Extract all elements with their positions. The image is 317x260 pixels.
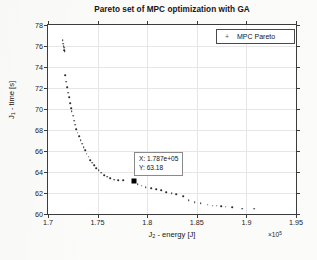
y-axis-label-subscript: 1 xyxy=(10,112,16,115)
y-axis-tick-right xyxy=(296,151,300,152)
x-axis-tick-label: 1.75 xyxy=(91,218,105,227)
gridline-horizontal xyxy=(48,46,296,47)
scatter-point xyxy=(194,201,196,203)
x-axis-tick-label: 1.7 xyxy=(43,218,53,227)
gridline-horizontal xyxy=(48,88,296,89)
y-axis-tick xyxy=(44,88,48,89)
scatter-point xyxy=(188,200,190,202)
scatter-point xyxy=(155,189,157,191)
scatter-point xyxy=(83,147,85,149)
x-axis-label: J2 - energy [J] xyxy=(47,230,297,239)
scatter-point xyxy=(212,205,214,207)
scatter-point xyxy=(74,124,76,126)
y-axis-tick-right xyxy=(296,193,300,194)
scatter-point xyxy=(72,115,74,117)
scatter-point xyxy=(150,187,152,189)
scatter-point xyxy=(145,186,147,188)
y-axis-tick-right xyxy=(296,109,300,110)
scatter-point xyxy=(242,208,244,210)
y-axis-tick-label: 72 xyxy=(35,84,43,93)
scatter-point xyxy=(65,75,67,77)
scatter-point xyxy=(81,143,83,145)
scatter-point xyxy=(160,189,162,191)
scatter-point xyxy=(207,204,209,206)
scatter-point xyxy=(216,205,218,207)
scatter-point xyxy=(110,178,112,180)
y-axis-label: J1 - time [s] xyxy=(7,81,16,119)
y-axis-tick-label: 68 xyxy=(35,126,43,135)
y-axis-tick xyxy=(44,193,48,194)
data-tip-x-value: X: 1.787e+05 xyxy=(139,155,178,164)
chart-legend[interactable]: + MPC Pareto xyxy=(216,29,295,44)
plot-axes: 606264666870727476781.71.751.81.851.91.9… xyxy=(47,24,297,215)
y-axis-tick-label: 78 xyxy=(35,21,43,30)
scatter-point xyxy=(70,107,72,109)
x-axis-tick-label: 1.8 xyxy=(142,218,152,227)
scatter-point xyxy=(175,193,177,195)
scatter-point xyxy=(90,159,92,161)
data-tip-callout[interactable]: X: 1.787e+05 Y: 63.18 xyxy=(134,152,183,176)
scatter-point xyxy=(69,102,71,104)
x-axis-tick-label: 1.95 xyxy=(289,218,303,227)
x-axis-tick-label: 1.85 xyxy=(190,218,204,227)
y-axis-tick xyxy=(44,25,48,26)
scatter-point xyxy=(123,180,125,182)
scatter-point xyxy=(86,153,88,155)
scatter-point xyxy=(93,165,95,167)
x-axis-tick-top xyxy=(246,21,247,25)
x-axis-tick-top xyxy=(98,21,99,25)
scatter-point xyxy=(68,92,70,94)
y-axis-tick xyxy=(44,109,48,110)
scatter-point xyxy=(80,139,82,141)
scatter-point xyxy=(91,162,93,164)
scatter-point xyxy=(71,110,73,112)
scatter-point xyxy=(62,39,64,41)
figure-canvas: Pareto set of MPC optimization with GA 6… xyxy=(0,0,317,260)
y-axis-tick-label: 62 xyxy=(35,189,43,198)
gridline-vertical xyxy=(147,25,148,214)
y-axis-tick xyxy=(44,151,48,152)
x-axis-tick-top xyxy=(197,21,198,25)
scatter-point xyxy=(137,183,139,185)
scatter-point xyxy=(182,195,184,197)
y-axis-tick xyxy=(44,46,48,47)
gridline-horizontal xyxy=(48,109,296,110)
y-axis-tick-right xyxy=(296,25,300,26)
scatter-point xyxy=(68,97,70,99)
scatter-point xyxy=(231,207,233,209)
scatter-point xyxy=(141,185,143,187)
x-axis-tick-top xyxy=(48,21,49,25)
gridline-vertical xyxy=(246,25,247,214)
scatter-point xyxy=(66,81,68,83)
x-axis-tick-top xyxy=(296,21,297,25)
scatter-point xyxy=(171,192,173,194)
x-axis-tick-top xyxy=(147,21,148,25)
scatter-point xyxy=(103,174,105,176)
y-axis-tick-right xyxy=(296,46,300,47)
scatter-point xyxy=(220,206,222,208)
scatter-point xyxy=(225,206,227,208)
gridline-vertical xyxy=(98,25,99,214)
scatter-point xyxy=(106,176,108,178)
x-axis-exponent: ×105 xyxy=(268,231,282,238)
y-axis-tick xyxy=(44,67,48,68)
data-tip-y-value: Y: 63.18 xyxy=(139,164,178,173)
y-axis-tick-label: 66 xyxy=(35,147,43,156)
scatter-point xyxy=(98,170,100,172)
scatter-point xyxy=(67,87,69,89)
scatter-point xyxy=(75,128,77,130)
gridline-horizontal xyxy=(48,67,296,68)
y-axis-tick xyxy=(44,172,48,173)
legend-marker-icon: + xyxy=(217,33,237,40)
selected-data-point[interactable] xyxy=(132,178,137,183)
legend-label-mpc-pareto: MPC Pareto xyxy=(237,33,275,40)
scatter-point xyxy=(200,202,202,204)
chart-title: Pareto set of MPC optimization with GA xyxy=(47,4,297,15)
scatter-point xyxy=(88,156,90,158)
y-axis-tick-label: 74 xyxy=(35,63,43,72)
scatter-point xyxy=(78,136,80,138)
scatter-point xyxy=(64,50,66,52)
y-axis-tick-right xyxy=(296,172,300,173)
scatter-point xyxy=(254,208,256,210)
x-axis-tick-label: 1.9 xyxy=(241,218,251,227)
